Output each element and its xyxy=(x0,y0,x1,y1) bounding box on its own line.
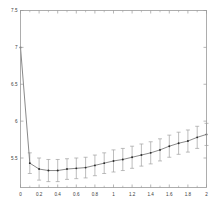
data-point-marker xyxy=(29,162,31,164)
data-point-marker xyxy=(122,159,124,161)
y-tick-label: 7 xyxy=(15,45,18,50)
tick-labels-group: 00.20.40.60.811.21.41.61.825.566.577.5 xyxy=(11,8,208,196)
data-point-marker xyxy=(178,142,180,144)
data-point-marker xyxy=(103,162,105,164)
x-tick-label: 0.4 xyxy=(55,192,62,197)
data-point-marker xyxy=(168,145,170,147)
data-point-marker xyxy=(140,154,142,156)
x-tick-label: 1.8 xyxy=(185,192,192,197)
x-tick-label: 1.4 xyxy=(148,192,155,197)
x-tick-label: 1.6 xyxy=(166,192,173,197)
x-tick-label: 2 xyxy=(205,192,208,197)
data-point-marker xyxy=(94,164,96,166)
data-point-marker xyxy=(38,168,40,170)
data-point-marker xyxy=(159,149,161,151)
x-tick-label: 0.8 xyxy=(92,192,99,197)
y-tick-label: 7.5 xyxy=(11,8,18,13)
errorbars-group xyxy=(28,123,209,181)
data-point-marker xyxy=(85,167,87,169)
x-tick-label: 0.2 xyxy=(36,192,43,197)
data-point-marker xyxy=(196,136,198,138)
y-tick-label: 6 xyxy=(15,119,18,124)
plot-canvas: 00.20.40.60.811.21.41.61.825.566.577.5 xyxy=(0,0,223,206)
data-point-marker xyxy=(150,152,152,154)
x-tick-label: 1.2 xyxy=(129,192,136,197)
chart-figure: 00.20.40.60.811.21.41.61.825.566.577.5 xyxy=(0,0,223,206)
data-point-marker xyxy=(47,170,49,172)
data-point-marker xyxy=(113,160,115,162)
x-tick-label: 1 xyxy=(112,192,115,197)
data-point-marker xyxy=(187,140,189,142)
data-point-marker xyxy=(75,167,77,169)
x-tick-label: 0 xyxy=(19,192,22,197)
data-point-marker xyxy=(66,168,68,170)
x-tick-label: 0.6 xyxy=(73,192,80,197)
data-point-marker xyxy=(131,156,133,158)
y-tick-label: 6.5 xyxy=(11,82,18,87)
y-tick-label: 5.5 xyxy=(11,156,18,161)
data-point-marker xyxy=(57,170,59,172)
